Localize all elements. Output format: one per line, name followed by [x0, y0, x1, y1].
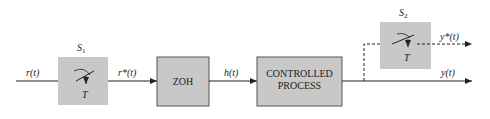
- sampled-input-signal: r*(t): [108, 67, 157, 81]
- sampler-s2: T S2: [380, 7, 431, 69]
- sampled-input-label: r*(t): [118, 67, 137, 79]
- sampler-s2-name: S2: [399, 7, 408, 20]
- zoh-output-signal: h(t): [209, 67, 257, 81]
- sampler-s1-name: S1: [77, 42, 86, 55]
- process-label-line1: CONTROLLED: [266, 68, 333, 79]
- sampler-s1: T S1: [58, 42, 108, 105]
- sampled-output-label: y*(t): [439, 31, 460, 43]
- controlled-process-block: CONTROLLED PROCESS: [257, 57, 342, 106]
- zoh-block: ZOH: [157, 57, 209, 106]
- output-label: y(t): [440, 67, 456, 79]
- block-diagram: r(t) T S1 r*(t) ZOH h(t) CONTROLLED PROC…: [0, 0, 490, 119]
- output-signal: y(t): [342, 67, 472, 81]
- zoh-output-label: h(t): [224, 67, 239, 79]
- process-label-line2: PROCESS: [278, 80, 321, 91]
- zoh-label: ZOH: [173, 76, 194, 87]
- input-label: r(t): [26, 67, 40, 79]
